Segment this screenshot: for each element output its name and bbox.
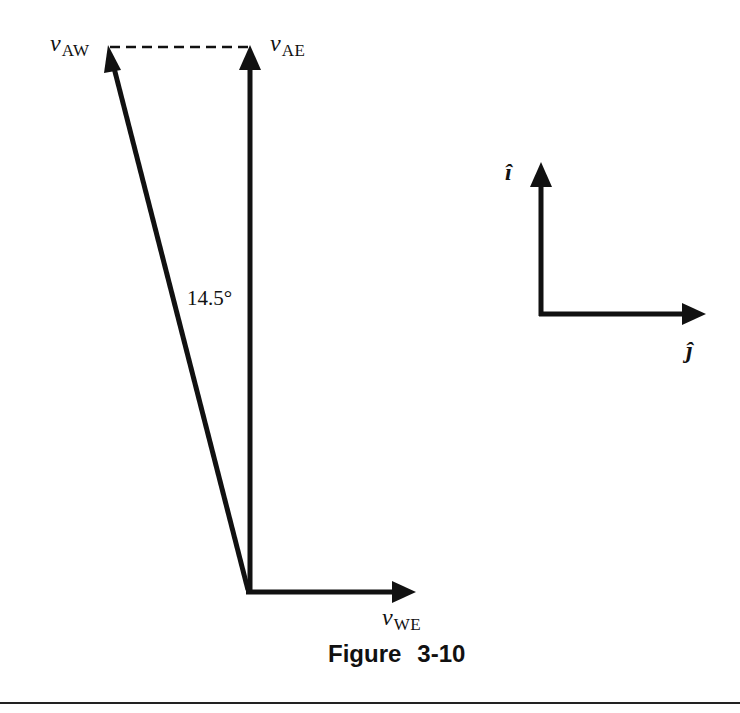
vector-subscript: WE [394, 615, 421, 634]
figure-caption: Figure3-10 [328, 642, 465, 666]
unit-axis-i-arrow [530, 162, 552, 316]
caption-number: 3-10 [417, 640, 465, 667]
vector-diagram [0, 0, 740, 713]
angle-label: 14.5° [187, 288, 232, 309]
vector-symbol: v [382, 604, 393, 630]
unit-vector-i-label: î [505, 160, 512, 184]
vector-v-aw-arrow [104, 45, 248, 590]
vector-subscript: AW [62, 41, 90, 60]
unit-vector-j-label: ĵ [686, 338, 693, 362]
vector-subscript: AE [282, 41, 306, 60]
unit-axis-j-arrow [539, 303, 706, 325]
vector-symbol: v [270, 30, 281, 56]
label-v-aw: vAW [50, 31, 90, 55]
vector-symbol: v [50, 30, 61, 56]
vector-v-ae-arrow [239, 45, 261, 594]
label-v-ae: vAE [270, 31, 305, 55]
vector-v-we-arrow [246, 581, 416, 603]
horizontal-rule [0, 702, 740, 704]
label-v-we: vWE [382, 605, 421, 629]
caption-word: Figure [328, 640, 401, 667]
